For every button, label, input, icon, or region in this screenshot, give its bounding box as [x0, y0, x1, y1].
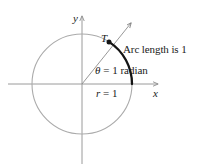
figure-canvas: [0, 0, 207, 168]
point-t-label: T: [101, 33, 107, 44]
radius-value: 1: [112, 87, 118, 99]
radius-label: r = 1: [96, 88, 118, 99]
unit-circle-radian-figure: y x T Arc length is 1 θ = 1 radian r = 1: [0, 0, 207, 168]
arc-length-label: Arc length is 1: [123, 44, 187, 55]
x-axis-label: x: [153, 88, 158, 99]
point-t-marker: [107, 40, 112, 45]
angle-label: θ = 1 radian: [95, 65, 148, 76]
angle-unit: radian: [120, 64, 147, 76]
y-axis-label: y: [73, 13, 78, 24]
